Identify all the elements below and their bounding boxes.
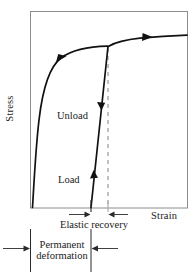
permanent-deformation-label-line2: deformation xyxy=(35,250,89,261)
permanent-deformation-label-line1: Permanent xyxy=(35,239,89,250)
elastic-recovery-label: Elastic recovery xyxy=(60,219,128,230)
elastic-recovery-right-arrowhead xyxy=(109,212,115,218)
stress-strain-diagram xyxy=(0,0,196,278)
unload-annotation-label: Unload xyxy=(57,110,88,121)
stress-strain-figure: Stress Strain Unload Load Elastic recove… xyxy=(0,0,196,278)
x-axis-label: Strain xyxy=(151,210,177,221)
permanent-deformation-right-arrowhead xyxy=(92,245,99,251)
permanent-deformation-label: Permanent deformation xyxy=(35,239,89,261)
y-axis-label: Stress xyxy=(4,86,15,132)
plot-frame xyxy=(31,12,188,209)
load-annotation-label: Load xyxy=(58,174,80,185)
elastic-recovery-left-arrowhead xyxy=(85,212,91,218)
permanent-deformation-left-arrowhead xyxy=(24,245,31,251)
